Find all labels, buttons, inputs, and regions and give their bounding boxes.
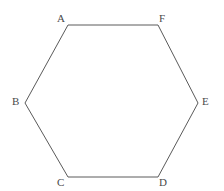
- vertex-label-a: A: [57, 13, 65, 24]
- hexagon-diagram: [0, 0, 224, 191]
- vertex-label-b: B: [12, 96, 19, 107]
- hexagon-outline: [25, 25, 198, 177]
- vertex-label-d: D: [159, 177, 167, 188]
- vertex-label-e: E: [202, 96, 209, 107]
- vertex-label-c: C: [57, 177, 64, 188]
- figure-canvas: A F E D C B: [0, 0, 224, 191]
- vertex-label-f: F: [159, 13, 165, 24]
